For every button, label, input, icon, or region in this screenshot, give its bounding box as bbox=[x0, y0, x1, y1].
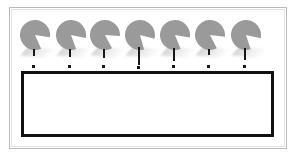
hanging-disc-unit bbox=[123, 20, 157, 75]
hanging-disc-unit bbox=[54, 20, 88, 75]
pacman-disc-icon bbox=[56, 20, 86, 50]
disc-stem bbox=[69, 49, 71, 57]
rectangle-bar bbox=[21, 71, 274, 137]
hanging-disc-row bbox=[0, 0, 296, 75]
disc-stem bbox=[33, 49, 35, 56]
hanging-disc-unit bbox=[229, 20, 263, 75]
disc-stem bbox=[244, 48, 246, 60]
hanging-disc-unit bbox=[88, 20, 122, 75]
pacman-disc-icon bbox=[125, 20, 155, 50]
diagram-canvas bbox=[0, 0, 296, 157]
pacman-disc-icon bbox=[20, 20, 50, 50]
hanging-disc-unit bbox=[193, 20, 227, 75]
hanging-disc-unit bbox=[158, 20, 192, 75]
pacman-disc-icon bbox=[90, 20, 120, 50]
disc-stem bbox=[208, 49, 210, 55]
pacman-disc-icon bbox=[231, 20, 261, 50]
disc-stem-foot bbox=[243, 65, 246, 68]
disc-stem-foot bbox=[68, 65, 71, 68]
disc-stem-foot bbox=[137, 66, 140, 69]
disc-stem-foot bbox=[207, 65, 210, 68]
disc-stem-foot bbox=[102, 65, 105, 68]
disc-stem-foot bbox=[32, 65, 35, 68]
pacman-disc-icon bbox=[160, 20, 190, 50]
disc-stem bbox=[103, 49, 105, 58]
hanging-disc-unit bbox=[18, 20, 52, 75]
disc-stem bbox=[173, 48, 175, 61]
disc-stem bbox=[138, 47, 140, 65]
pacman-disc-icon bbox=[195, 20, 225, 50]
disc-stem-foot bbox=[172, 65, 175, 68]
